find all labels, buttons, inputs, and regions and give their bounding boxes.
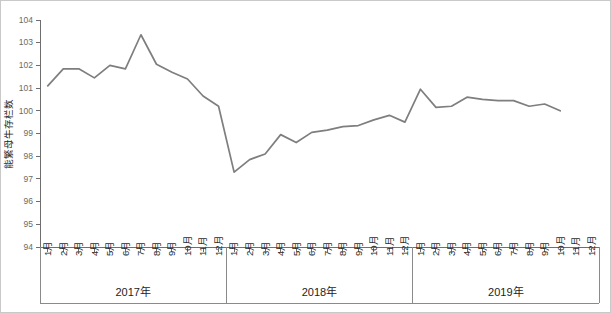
x-tick-label: 1月	[42, 241, 53, 256]
x-tick-label: 7月	[508, 241, 519, 256]
x-tick-label: 6月	[120, 241, 131, 256]
x-tick-label: 12月	[213, 235, 224, 256]
x-tick-label: 2月	[430, 241, 441, 256]
y-tick-label: 96	[24, 196, 34, 206]
x-tick-label: 11月	[570, 236, 581, 256]
x-tick-label: 1月	[415, 241, 426, 256]
x-tick-label: 4月	[89, 241, 100, 256]
chart-figure: 9495969798991001011021031041月2月3月4月5月6月7…	[0, 0, 611, 313]
y-tick-label: 101	[19, 83, 33, 93]
y-tick-label: 94	[24, 242, 34, 252]
x-tick-label: 5月	[104, 241, 115, 256]
x-tick-label: 3月	[446, 241, 457, 256]
x-tick-label: 10月	[368, 235, 379, 256]
x-group-label: 2019年	[488, 285, 523, 298]
x-tick-label: 6月	[306, 241, 317, 256]
x-tick-label: 7月	[135, 241, 146, 256]
x-tick-label: 12月	[586, 235, 597, 256]
x-tick-label: 4月	[275, 241, 286, 256]
x-tick-label: 7月	[322, 241, 333, 256]
y-tick-label: 98	[24, 151, 34, 161]
y-tick-label: 103	[19, 37, 33, 47]
x-tick-label: 6月	[492, 241, 503, 256]
y-tick-label: 95	[24, 219, 34, 229]
data-series-line	[48, 35, 560, 172]
x-tick-label: 10月	[182, 235, 193, 256]
x-group-label: 2017年	[115, 285, 150, 298]
y-tick-label: 104	[19, 15, 33, 25]
x-tick-label: 3月	[260, 241, 271, 256]
x-tick-label: 8月	[524, 241, 535, 256]
x-tick-label: 4月	[461, 241, 472, 256]
x-tick-label: 2月	[244, 241, 255, 256]
x-tick-label: 3月	[73, 241, 84, 256]
x-tick-label: 2月	[58, 241, 69, 256]
y-tick-label: 100	[19, 106, 33, 116]
y-axis-title: 能繁母牛存栏数	[3, 99, 14, 169]
x-tick-label: 11月	[197, 236, 208, 256]
x-tick-label: 9月	[539, 241, 550, 256]
x-tick-label: 1月	[228, 241, 239, 256]
x-tick-label: 11月	[384, 236, 395, 256]
x-tick-label: 10月	[555, 235, 566, 256]
x-tick-label: 8月	[337, 241, 348, 256]
x-tick-label: 5月	[477, 241, 488, 256]
y-tick-label: 99	[24, 128, 34, 138]
x-tick-label: 8月	[151, 241, 162, 256]
x-tick-label: 12月	[399, 235, 410, 256]
x-tick-label: 9月	[353, 241, 364, 256]
x-group-label: 2018年	[302, 285, 337, 298]
line-chart: 9495969798991001011021031041月2月3月4月5月6月7…	[1, 1, 611, 313]
x-tick-label: 5月	[291, 241, 302, 256]
x-tick-label: 9月	[166, 241, 177, 256]
y-tick-label: 97	[24, 174, 34, 184]
y-tick-label: 102	[19, 60, 33, 70]
